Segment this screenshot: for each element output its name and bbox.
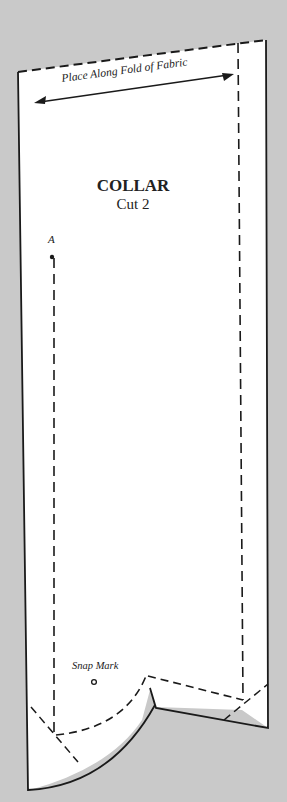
point-a-label: A: [47, 233, 55, 245]
cut-instruction: Cut 2: [117, 196, 150, 212]
piece-title: COLLAR: [97, 176, 170, 195]
pattern-outline: [18, 40, 268, 790]
snap-mark-marker: [92, 680, 97, 685]
snap-mark-label: Snap Mark: [72, 660, 119, 671]
point-a-marker: [50, 255, 54, 259]
collar-pattern-diagram: Place Along Fold of Fabric COLLAR Cut 2 …: [0, 0, 287, 802]
